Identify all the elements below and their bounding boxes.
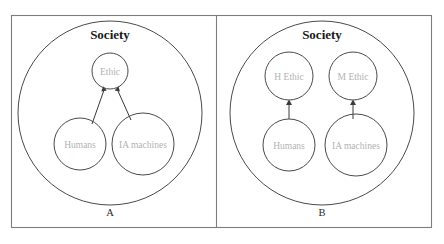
node-h-ethic-b-label: H Ethic xyxy=(274,72,303,82)
society-boundary-b xyxy=(230,21,414,205)
society-title-a: Society xyxy=(90,27,130,42)
panel-a-label: A xyxy=(106,207,114,218)
society-boundary-a xyxy=(18,21,202,205)
outer-frame xyxy=(12,16,432,228)
figure-container: Society Ethic Humans IA machines A Socie… xyxy=(0,0,444,244)
node-humans-b-label: Humans xyxy=(273,141,305,151)
node-ia-machines-b-label: IA machines xyxy=(332,141,380,151)
edge-humans-to-ethic xyxy=(92,90,104,125)
node-ethic-a-label: Ethic xyxy=(100,67,120,77)
society-title-b: Society xyxy=(302,27,342,42)
panel-b: Society H Ethic M Ethic Humans IA machin… xyxy=(230,21,414,218)
edge-machines-to-ethic xyxy=(117,90,131,121)
panel-a: Society Ethic Humans IA machines A xyxy=(18,21,202,218)
panel-b-label: B xyxy=(318,207,325,218)
node-humans-a-label: Humans xyxy=(64,140,96,150)
node-ia-machines-a-label: IA machines xyxy=(119,140,167,150)
node-m-ethic-b-label: M Ethic xyxy=(338,72,369,82)
